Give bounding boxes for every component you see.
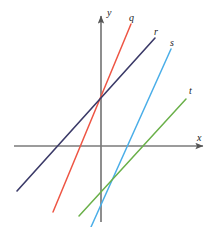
axes-group [14, 16, 203, 222]
line-r [17, 38, 155, 191]
line-label-s: s [170, 38, 174, 48]
plot-canvas [0, 0, 218, 227]
line-graph-figure: y x q r s t [0, 0, 218, 227]
line-label-r: r [154, 27, 158, 37]
line-q [53, 24, 131, 212]
line-label-t: t [189, 86, 192, 96]
line-label-q: q [129, 13, 134, 23]
x-axis-label: x [197, 133, 201, 143]
line-s [91, 49, 171, 227]
y-axis-label: y [107, 8, 111, 18]
line-t [79, 99, 186, 216]
